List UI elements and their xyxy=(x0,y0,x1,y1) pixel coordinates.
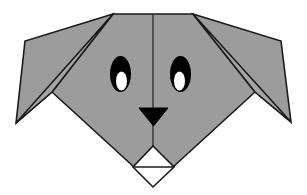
image-canvas xyxy=(0,0,307,195)
left-eye-pupil xyxy=(116,72,127,91)
origami-dog-figure xyxy=(0,0,307,195)
right-eye-pupil xyxy=(174,72,185,91)
